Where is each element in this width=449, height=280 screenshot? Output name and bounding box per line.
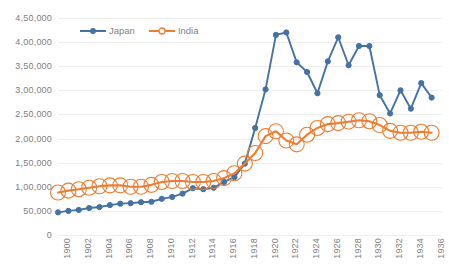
- x-axis-tick-label: 1930: [373, 238, 383, 259]
- chart-legend: JapanIndia: [80, 26, 199, 36]
- x-axis-tick-label: 1926: [332, 238, 342, 259]
- y-axis-tick-label: 2,00,000: [15, 134, 52, 144]
- data-point-japan: [221, 179, 226, 184]
- data-point-japan: [377, 93, 382, 98]
- data-point-japan: [325, 59, 330, 64]
- data-point-japan: [87, 205, 92, 210]
- y-axis-tick-label: 4,50,000: [15, 13, 52, 23]
- data-point-japan: [429, 95, 434, 100]
- data-point-japan: [180, 191, 185, 196]
- y-axis-labels: 050,0001,00,0001,50,0002,00,0002,50,0003…: [0, 18, 52, 235]
- data-point-japan: [149, 199, 154, 204]
- x-axis-tick-label: 1920: [270, 238, 280, 259]
- x-axis-tick-label: 1932: [394, 238, 404, 259]
- data-point-japan: [263, 87, 268, 92]
- x-axis-tick-label: 1902: [83, 238, 93, 259]
- legend-marker-icon: [149, 26, 175, 36]
- data-point-japan: [190, 186, 195, 191]
- data-point-japan: [107, 203, 112, 208]
- data-point-japan: [346, 63, 351, 68]
- data-point-japan: [367, 43, 372, 48]
- x-axis-tick-label: 1900: [62, 238, 72, 259]
- data-point-japan: [97, 204, 102, 209]
- y-axis-tick-label: 4,00,000: [15, 37, 52, 47]
- x-axis-labels: 1900190219041906190819101912191419161918…: [58, 238, 442, 280]
- data-point-japan: [398, 88, 403, 93]
- x-axis-tick-label: 1906: [124, 238, 134, 259]
- x-axis-tick-label: 1928: [353, 238, 363, 259]
- series-layer: [58, 18, 442, 235]
- legend-item-india[interactable]: India: [149, 26, 199, 36]
- x-axis-tick-label: 1934: [415, 238, 425, 259]
- y-axis-tick-label: 3,50,000: [15, 61, 52, 71]
- data-point-japan: [304, 69, 309, 74]
- gridline: [58, 235, 442, 236]
- data-point-japan: [159, 196, 164, 201]
- data-point-japan: [232, 175, 237, 180]
- x-axis-tick-label: 1912: [187, 238, 197, 259]
- data-point-japan: [294, 60, 299, 65]
- data-point-japan: [419, 81, 424, 86]
- data-point-japan: [356, 43, 361, 48]
- y-axis-tick-label: 1,00,000: [15, 182, 52, 192]
- x-axis-tick-label: 1910: [166, 238, 176, 259]
- data-point-japan: [273, 32, 278, 37]
- data-point-japan: [408, 106, 413, 111]
- y-axis-tick-label: 1,50,000: [15, 158, 52, 168]
- data-point-japan: [55, 210, 60, 215]
- data-point-japan: [76, 207, 81, 212]
- x-axis-tick-label: 1916: [228, 238, 238, 259]
- data-point-japan: [253, 125, 258, 130]
- data-point-japan: [128, 201, 133, 206]
- x-axis-tick-label: 1922: [290, 238, 300, 259]
- x-axis-tick-label: 1918: [249, 238, 259, 259]
- data-point-japan: [336, 35, 341, 40]
- legend-label: Japan: [109, 26, 135, 36]
- y-axis-tick-label: 0: [47, 230, 52, 240]
- data-point-japan: [66, 208, 71, 213]
- plot-area: [58, 18, 442, 235]
- x-axis-tick-label: 1914: [207, 238, 217, 259]
- y-axis-tick-label: 2,50,000: [15, 109, 52, 119]
- data-point-japan: [170, 194, 175, 199]
- data-point-japan: [315, 91, 320, 96]
- data-point-japan: [118, 201, 123, 206]
- x-axis-tick-label: 1936: [436, 238, 446, 259]
- data-point-japan: [388, 111, 393, 116]
- line-chart: 050,0001,00,0001,50,0002,00,0002,50,0003…: [0, 0, 449, 280]
- y-axis-tick-label: 50,000: [23, 206, 52, 216]
- data-point-japan: [138, 200, 143, 205]
- legend-marker-icon: [80, 26, 106, 36]
- legend-label: India: [178, 26, 199, 36]
- data-point-japan: [284, 30, 289, 35]
- x-axis-tick-label: 1924: [311, 238, 321, 259]
- x-axis-tick-label: 1904: [104, 238, 114, 259]
- legend-item-japan[interactable]: Japan: [80, 26, 135, 36]
- x-axis-tick-label: 1908: [145, 238, 155, 259]
- y-axis-tick-label: 3,00,000: [15, 85, 52, 95]
